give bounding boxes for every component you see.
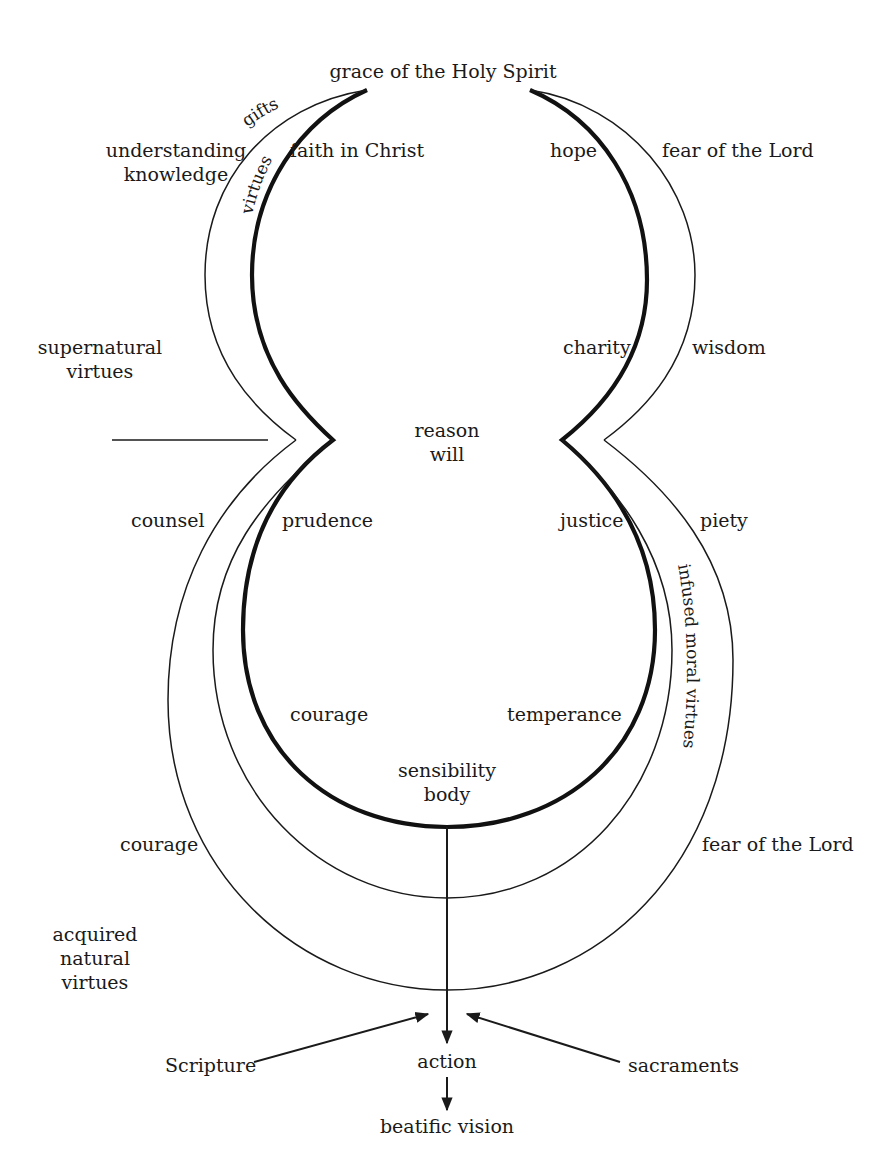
virtues-diagram: gifts virtues infused moral virtues grac… <box>0 0 878 1174</box>
justice-label: justice <box>558 509 623 531</box>
fear-of-the-lord-lower-label: fear of the Lord <box>702 833 854 855</box>
understanding-label: understanding <box>106 139 247 161</box>
will-label: will <box>430 443 465 465</box>
virtues-natural-label: virtues <box>61 971 129 993</box>
acquired-label: acquired <box>53 923 138 945</box>
hope-label: hope <box>550 139 597 161</box>
wisdom-label: wisdom <box>692 336 766 358</box>
charity-label: charity <box>563 336 631 358</box>
knowledge-label: knowledge <box>124 163 228 185</box>
counsel-label: counsel <box>131 509 205 531</box>
sacraments-arrow <box>467 1014 620 1062</box>
reason-label: reason <box>414 419 479 441</box>
infused-moral-virtues-label: infused moral virtues <box>674 562 703 749</box>
scripture-arrow <box>254 1014 428 1062</box>
action-label: action <box>417 1050 476 1072</box>
beatific-vision-label: beatific vision <box>380 1115 514 1137</box>
courage-outer-label: courage <box>120 833 198 855</box>
natural-label: natural <box>60 947 130 969</box>
temperance-label: temperance <box>507 703 622 725</box>
supernatural-label: supernatural <box>38 336 162 358</box>
gifts-arc-label: gifts <box>238 93 282 130</box>
prudence-label: prudence <box>282 509 373 531</box>
courage-inner-label: courage <box>290 703 368 725</box>
body-label: body <box>424 783 471 805</box>
scripture-label: Scripture <box>165 1054 256 1076</box>
grace-label: grace of the Holy Spirit <box>329 60 556 82</box>
piety-label: piety <box>700 509 748 531</box>
fear-of-the-lord-upper-label: fear of the Lord <box>662 139 814 161</box>
sensibility-label: sensibility <box>398 759 496 781</box>
sacraments-label: sacraments <box>628 1054 739 1076</box>
faith-label: faith in Christ <box>290 139 424 161</box>
supernatural-virtues-label: virtues <box>66 360 134 382</box>
